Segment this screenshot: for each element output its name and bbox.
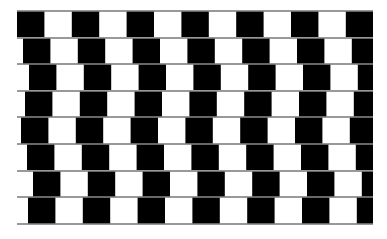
cafe-wall-pattern-canvas — [0, 0, 387, 239]
cafe-wall-illusion-figure — [0, 0, 387, 239]
